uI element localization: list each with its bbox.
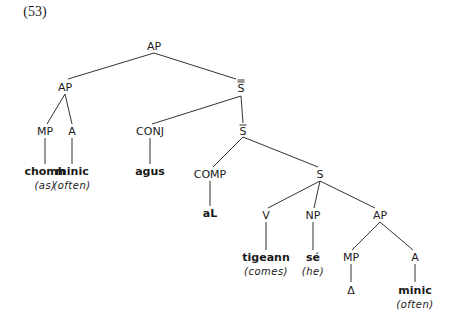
node-s: S [317, 168, 324, 181]
gloss-comes: (comes) [244, 266, 288, 277]
leaf-aL: aL [203, 207, 217, 220]
node-ap-right: AP [373, 209, 387, 222]
bar-mark [240, 125, 247, 126]
leaf-delta-empty: Δ [347, 284, 355, 297]
node-comp: COMP [194, 168, 226, 181]
gloss-he: (he) [302, 266, 324, 277]
syntax-tree-diagram: (53) AP AP S MP A CONJ S chomh (as) mini… [0, 0, 453, 323]
bar-mark [238, 82, 245, 83]
node-mp-left: MP [37, 125, 53, 138]
node-v: V [262, 209, 270, 222]
leaf-se: sé [306, 251, 320, 264]
leaf-agus: agus [135, 165, 165, 178]
example-number: (53) [23, 4, 46, 20]
leaf-tigeann: tigeann [242, 251, 289, 264]
leaf-minic-right: minic [398, 284, 431, 297]
node-mp-right: MP [343, 251, 359, 264]
gloss-often-left: (often) [53, 180, 90, 191]
leaf-minic-left: minic [55, 165, 88, 178]
node-a-right: A [411, 251, 419, 264]
bar-mark [238, 80, 245, 81]
node-conj: CONJ [136, 125, 164, 138]
node-s-double-bar-label: S [238, 82, 245, 95]
node-s-bar: S [240, 125, 247, 138]
node-s-bar-label: S [240, 125, 247, 138]
tree-branches [0, 0, 453, 323]
node-ap-root: AP [147, 40, 161, 53]
gloss-often-right: (often) [396, 299, 433, 310]
node-ap-left: AP [58, 81, 72, 94]
node-s-double-bar: S [238, 82, 245, 95]
node-a-left: A [68, 125, 76, 138]
node-np: NP [306, 209, 321, 222]
